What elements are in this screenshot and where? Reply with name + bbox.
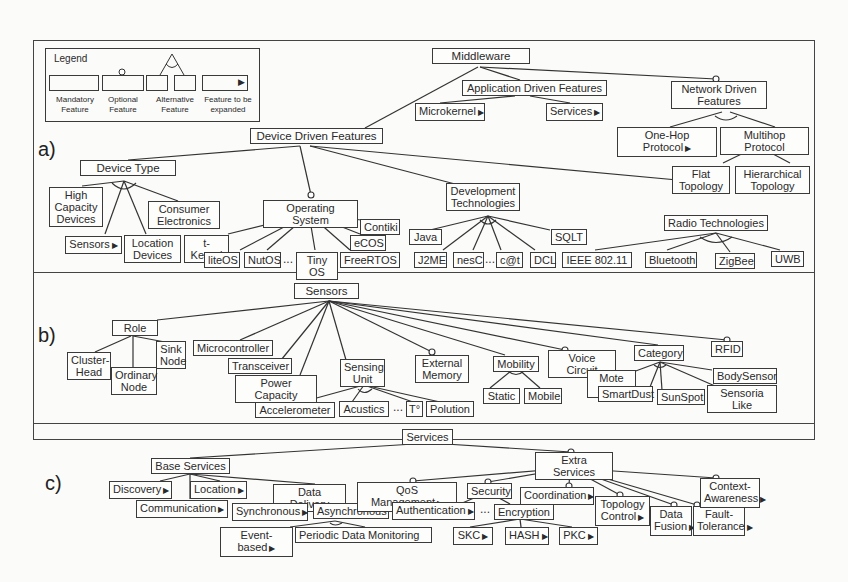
node-rfid[interactable]: RFID xyxy=(711,341,743,357)
node-flat-topology[interactable]: Flat Topology xyxy=(672,166,730,194)
node-sensors[interactable]: Sensors xyxy=(65,236,122,254)
node-power-capacity[interactable]: Power Capacity xyxy=(235,375,317,403)
section-divider-bc xyxy=(33,423,815,424)
section-label-a: a) xyxy=(38,138,56,161)
node-nutos[interactable]: NutOS xyxy=(244,252,281,268)
node-topology-control[interactable]: Topology Control xyxy=(595,496,650,526)
node-category[interactable]: Category xyxy=(634,345,684,361)
node-ecos[interactable]: eCOS xyxy=(350,235,386,251)
node-application-driven-features[interactable]: Application Driven Features xyxy=(462,80,607,96)
node-cat[interactable]: c@t xyxy=(496,252,523,268)
legend-title: Legend xyxy=(54,53,87,64)
node-zigbee[interactable]: ZigBee xyxy=(715,253,755,269)
node-development-technologies[interactable]: Development Technologies xyxy=(446,183,520,211)
node-mobile[interactable]: Mobile xyxy=(524,388,562,404)
legend-expand-label: Feature to be expanded xyxy=(200,95,256,115)
node-nesc[interactable]: nesC xyxy=(453,252,484,268)
node-coordination[interactable]: Coordination xyxy=(520,487,594,505)
node-dcl[interactable]: DCL xyxy=(530,252,556,268)
expand-arrow-icon: ▶ xyxy=(238,77,245,87)
node-security[interactable]: Security xyxy=(467,483,512,499)
ellipsis-dev: ... xyxy=(485,252,495,266)
node-microcontroller[interactable]: Microcontroller xyxy=(193,340,273,356)
node-smartdust[interactable]: SmartDust xyxy=(598,386,653,402)
node-acustics[interactable]: Acustics xyxy=(339,401,389,417)
node-sensing-unit[interactable]: Sensing Unit xyxy=(340,359,385,387)
node-consumer-electronics[interactable]: Consumer Electronics xyxy=(148,201,220,229)
node-transceiver[interactable]: Transceiver xyxy=(228,358,292,374)
node-freertos[interactable]: FreeRTOS xyxy=(340,252,400,268)
node-high-capacity-devices[interactable]: High Capacity Devices xyxy=(49,187,103,227)
node-j2me[interactable]: J2ME xyxy=(414,252,447,268)
node-event-based[interactable]: Event-based xyxy=(220,527,293,557)
node-device-driven-features[interactable]: Device Driven Features xyxy=(250,128,383,144)
legend-optional-box xyxy=(102,75,144,91)
legend-mandatory-label: Mandatory Feature xyxy=(48,95,102,115)
node-services-root[interactable]: Services xyxy=(402,429,453,445)
node-location[interactable]: Location xyxy=(190,481,247,499)
node-sensors-root[interactable]: Sensors xyxy=(294,283,359,299)
node-communication[interactable]: Communication xyxy=(136,500,228,518)
alternative-arc-icon xyxy=(156,53,188,77)
node-sunspot[interactable]: SunSpot xyxy=(657,389,705,405)
node-authentication[interactable]: Authentication xyxy=(392,502,475,520)
node-middleware[interactable]: Middleware xyxy=(432,48,530,64)
node-java[interactable]: Java xyxy=(409,229,442,245)
node-sqlt[interactable]: SQLT xyxy=(551,229,587,245)
section-label-b: b) xyxy=(38,324,56,347)
node-ordinary-node[interactable]: Ordinary Node xyxy=(111,367,157,395)
legend-mandatory-box xyxy=(49,75,99,91)
node-cluster-head[interactable]: Cluster- Head xyxy=(67,352,111,380)
node-data-fusion[interactable]: Data Fusion xyxy=(650,506,692,536)
node-periodic-data-monitoring[interactable]: Periodic Data Monitoring xyxy=(295,527,432,543)
legend-alternative-label: Alternative Feature xyxy=(150,95,200,115)
ellipsis-os: ... xyxy=(283,252,293,266)
node-extra-services[interactable]: Extra Services xyxy=(535,452,613,480)
node-tiny-os[interactable]: Tiny OS xyxy=(296,252,338,280)
node-polution[interactable]: Polution xyxy=(426,401,474,417)
node-skc[interactable]: SKC xyxy=(453,527,493,545)
section-divider-ab xyxy=(33,272,815,273)
node-accelerometer[interactable]: Accelerometer xyxy=(255,402,335,418)
node-radio-technologies[interactable]: Radio Technologies xyxy=(664,215,768,231)
node-encryption[interactable]: Encryption xyxy=(494,504,554,520)
node-location-devices[interactable]: Location Devices xyxy=(124,235,181,263)
node-one-hop-protocol[interactable]: One-Hop Protocol xyxy=(617,127,717,157)
node-temperature[interactable]: T° xyxy=(406,401,423,417)
node-mobility[interactable]: Mobility xyxy=(493,356,539,372)
node-services[interactable]: Services xyxy=(546,103,603,121)
legend-alternative-box-2 xyxy=(174,75,196,91)
section-label-c: c) xyxy=(45,472,62,495)
legend-alternative-box-1 xyxy=(146,75,168,91)
node-base-services[interactable]: Base Services xyxy=(151,458,230,474)
node-uwb[interactable]: UWB xyxy=(771,251,804,267)
node-liteos[interactable]: liteOS xyxy=(204,252,240,268)
node-multihop-protocol[interactable]: Multihop Protocol xyxy=(720,127,809,155)
node-hierarchical-topology[interactable]: Hierarchical Topology xyxy=(735,166,810,194)
optional-circle-icon xyxy=(116,67,128,76)
node-static[interactable]: Static xyxy=(483,388,520,404)
node-external-memory[interactable]: External Memory xyxy=(415,355,469,383)
node-sensoria-like[interactable]: Sensoria Like xyxy=(707,385,777,413)
node-role[interactable]: Role xyxy=(112,320,158,336)
legend-expand-box: ▶ xyxy=(202,75,248,91)
node-network-driven-features[interactable]: Network Driven Features xyxy=(671,81,767,109)
node-sink-node[interactable]: Sink Node xyxy=(156,341,186,369)
node-operating-system[interactable]: Operating System xyxy=(263,200,358,228)
legend-optional-label: Optional Feature xyxy=(100,95,146,115)
ellipsis-sensing: ... xyxy=(393,400,403,414)
node-contiki[interactable]: Contiki xyxy=(360,219,400,235)
node-fault-tolerance[interactable]: Fault- Tolerance xyxy=(693,506,745,536)
node-bluetooth[interactable]: Bluetooth xyxy=(645,252,697,268)
node-synchronous[interactable]: Synchronous xyxy=(232,503,308,521)
node-discovery[interactable]: Discovery xyxy=(109,481,172,499)
ellipsis-security: ... xyxy=(480,502,490,516)
legend: Legend ▶ Mandatory Feature Optional Feat… xyxy=(45,48,260,122)
node-device-type[interactable]: Device Type xyxy=(80,160,176,176)
node-context-awareness[interactable]: Context- Awareness xyxy=(700,478,760,508)
node-pkc[interactable]: PKC xyxy=(559,527,598,545)
node-microkernel[interactable]: Microkernel xyxy=(415,103,485,121)
node-ieee-80211[interactable]: IEEE 802.11 xyxy=(562,252,632,268)
node-hash[interactable]: HASH xyxy=(505,527,549,545)
node-bodysensor[interactable]: BodySensor xyxy=(713,368,777,384)
